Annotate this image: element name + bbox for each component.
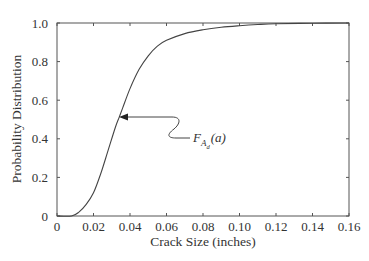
plot-frame [57,23,349,216]
x-axis: 00.020.040.060.080.100.120.140.16 [54,23,361,234]
y-tick-label: 0.6 [32,93,49,108]
x-tick-label: 0.08 [192,219,215,234]
annotation-leader-line [124,117,190,138]
x-tick-label: 0.12 [265,219,288,234]
y-tick-label: 0.4 [32,131,49,146]
x-tick-label: 0.02 [82,219,105,234]
annotation-label: FAd(a) [192,130,226,150]
chart: 00.020.040.060.080.100.120.140.16 00.20.… [0,0,369,261]
x-tick-label: 0 [54,219,61,234]
x-tick-label: 0.16 [338,219,361,234]
y-tick-label: 0 [42,209,49,224]
y-axis: 00.20.40.60.81.0 [32,16,349,224]
x-axis-label: Crack Size (inches) [150,234,256,249]
cdf-curve [57,23,349,216]
y-tick-label: 0.2 [32,170,48,185]
x-tick-label: 0.10 [228,219,251,234]
x-tick-label: 0.14 [301,219,324,234]
x-tick-label: 0.06 [155,219,178,234]
curve-annotation: FAd(a) [119,114,226,150]
y-tick-label: 1.0 [32,16,48,31]
y-tick-label: 0.8 [32,54,48,69]
x-tick-label: 0.04 [119,219,142,234]
y-axis-label: Probability Distribution [9,54,24,183]
